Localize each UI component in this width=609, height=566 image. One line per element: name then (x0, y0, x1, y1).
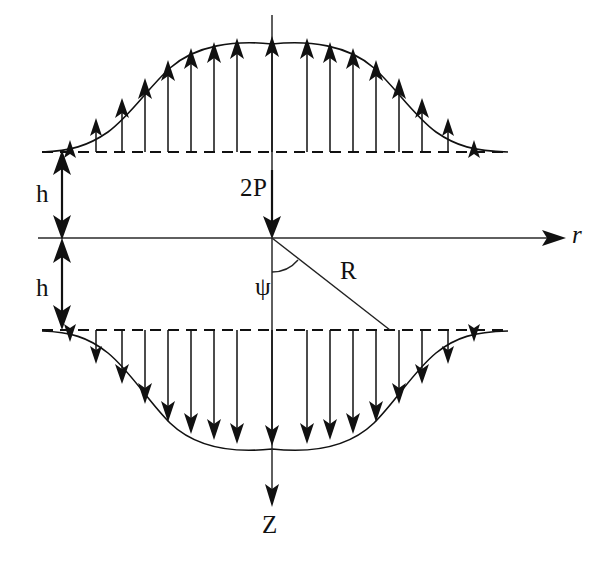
radius-label-r: R (340, 258, 357, 283)
dimension-label-h-lower: h (36, 275, 49, 300)
distribution-arrow (115, 330, 129, 384)
distribution-arrow (138, 330, 152, 404)
distribution-arrow (300, 330, 314, 444)
distribution-arrow (161, 330, 175, 422)
distribution-arrow (230, 38, 244, 152)
load-label: 2P (240, 175, 267, 200)
lower-distribution-arrows (64, 324, 480, 446)
distribution-arrow (346, 48, 360, 152)
distribution-arrow (300, 38, 314, 152)
upper-distribution-arrows (64, 36, 480, 158)
dimension-label-h-upper: h (36, 181, 49, 206)
distribution-arrow (184, 330, 198, 434)
distribution-arrow (90, 118, 102, 152)
load-distribution-diagram: h h 2P r ψ R Z (0, 0, 609, 566)
distribution-arrow (392, 330, 406, 404)
distribution-arrow (207, 42, 221, 152)
distribution-arrow (415, 330, 429, 384)
distribution-arrow (184, 48, 198, 152)
angle-arc (272, 260, 298, 272)
distribution-arrow (265, 36, 279, 152)
radius-line (272, 238, 390, 330)
r-axis-label: r (572, 222, 582, 247)
distribution-arrow (323, 42, 337, 152)
distribution-arrow (346, 330, 360, 434)
z-axis-label: Z (262, 512, 277, 537)
distribution-arrow (207, 330, 221, 440)
distribution-arrow (442, 118, 454, 152)
distribution-arrow (369, 330, 383, 422)
upper-distribution-curve (42, 43, 508, 152)
diagram-canvas (0, 0, 609, 566)
distribution-arrow (265, 330, 279, 446)
distribution-arrow (230, 330, 244, 444)
distribution-arrow (323, 330, 337, 440)
angle-label-psi: ψ (255, 274, 271, 299)
